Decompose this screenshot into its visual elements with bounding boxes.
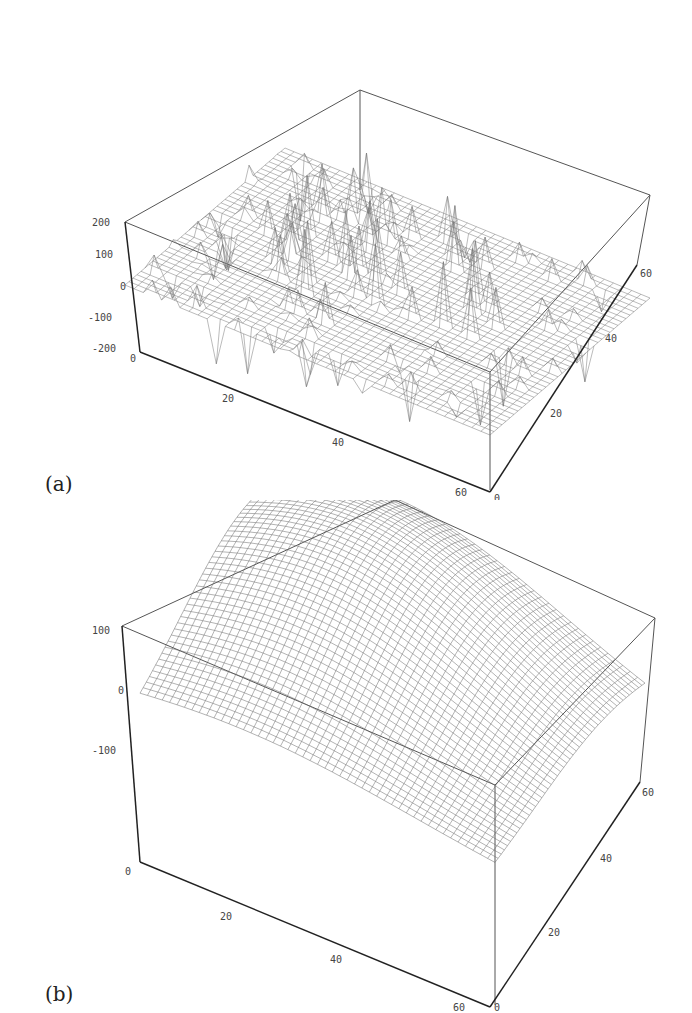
z-tick-100: 100	[92, 625, 110, 636]
z-tick-0: 0	[118, 685, 124, 696]
y-tick-20: 20	[548, 927, 560, 938]
z-tick-100: 100	[95, 249, 113, 260]
y-tick-0: 0	[494, 1002, 500, 1013]
surface-plot-a: 200 100 0 -100 -200 0 20 40 60 0 20 40 6…	[0, 0, 692, 500]
z-tick-neg100: -100	[88, 312, 112, 323]
panel-b: 100 0 -100 0 20 40 60 0 20 40 60 (b)	[0, 500, 692, 1013]
z-tick-neg100: -100	[92, 745, 116, 756]
y-tick-60: 60	[640, 268, 652, 279]
x-tick-40: 40	[332, 437, 344, 448]
y-tick-0: 0	[494, 493, 500, 500]
z-tick-200: 200	[92, 217, 110, 228]
panel-a-label: (a)	[45, 472, 73, 496]
y-tick-40: 40	[600, 853, 612, 864]
y-tick-60: 60	[642, 787, 654, 798]
x-tick-20: 20	[220, 911, 232, 922]
x-tick-0: 0	[130, 353, 136, 364]
surface-plot-b: 100 0 -100 0 20 40 60 0 20 40 60	[0, 500, 692, 1013]
x-tick-20: 20	[222, 393, 234, 404]
z-tick-0: 0	[120, 281, 126, 292]
x-tick-60: 60	[455, 487, 467, 498]
x-tick-60: 60	[453, 1002, 465, 1013]
z-tick-neg200: -200	[92, 343, 116, 354]
panel-b-label: (b)	[45, 982, 73, 1006]
panel-a: 200 100 0 -100 -200 0 20 40 60 0 20 40 6…	[0, 0, 692, 500]
y-tick-20: 20	[550, 408, 562, 419]
y-tick-40: 40	[605, 333, 617, 344]
x-tick-0: 0	[125, 866, 131, 877]
x-tick-40: 40	[330, 954, 342, 965]
